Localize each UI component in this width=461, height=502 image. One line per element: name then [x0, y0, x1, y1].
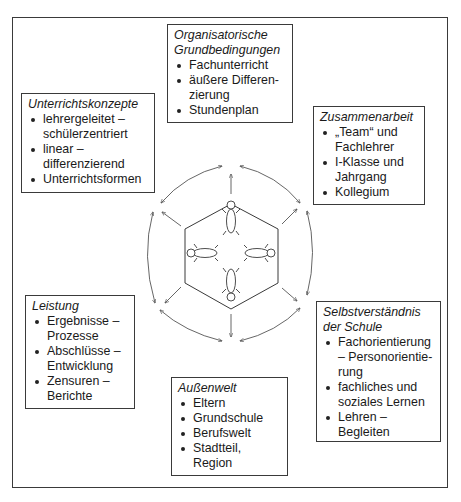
person-top [222, 201, 240, 235]
radial-arrows [162, 174, 297, 337]
person-bottom [222, 268, 240, 301]
person-figures [187, 201, 275, 301]
ring-arrows [147, 166, 312, 341]
person-right [244, 244, 275, 262]
center-diagram [0, 0, 461, 502]
person-left [187, 244, 218, 262]
